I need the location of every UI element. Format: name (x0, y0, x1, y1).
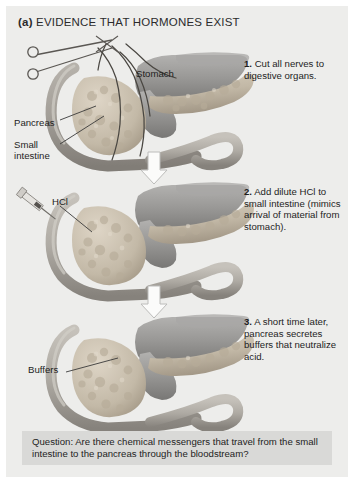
figure-title-text: EVIDENCE THAT HORMONES EXIST (36, 16, 240, 28)
label-hcl: HCl (52, 196, 68, 207)
label-small-intestine: Small intestine (14, 139, 50, 162)
step-caption-2: 2. Add dilute HCl to small intestine (mi… (244, 186, 348, 232)
label-pancreas: Pancreas (14, 117, 55, 128)
label-stomach: Stomach (136, 68, 174, 79)
step-text-1: Cut all nerves to digestive organs. (244, 58, 324, 81)
figure-root: (a) EVIDENCE THAT HORMONES EXIST 1. Cut … (0, 0, 354, 483)
figure-title: (a) EVIDENCE THAT HORMONES EXIST (18, 16, 240, 28)
step-caption-1: 1. Cut all nerves to digestive organs. (244, 58, 348, 81)
anatomy-panel-1 (28, 36, 254, 166)
step-text-3: A short time later, pancreas secretes bu… (244, 316, 336, 362)
step-caption-3: 3. A short time later, pancreas secretes… (244, 316, 348, 362)
step-text-2: Add dilute HCl to small intestine (mimic… (244, 186, 341, 232)
figure-tag: (a) (18, 16, 33, 28)
question-text: Question: Are there chemical messengers … (22, 436, 332, 461)
anatomy-panel-2 (51, 182, 254, 296)
question-box: Question: Are there chemical messengers … (22, 431, 332, 465)
step-number-3: 3. (244, 316, 252, 327)
label-buffers: Buffers (28, 364, 58, 375)
anatomy-panel-3 (51, 314, 254, 428)
step-number-1: 1. (244, 58, 252, 69)
step-number-2: 2. (244, 186, 252, 197)
